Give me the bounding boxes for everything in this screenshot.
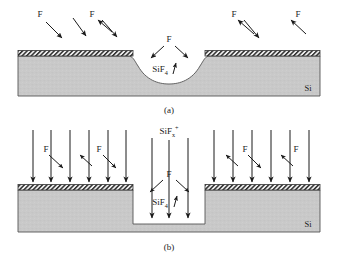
radical-label-b-2: F bbox=[96, 144, 101, 154]
panel-caption-b: (b) bbox=[164, 242, 175, 252]
radical-label-a-4: F bbox=[295, 9, 300, 19]
substrate-label-a: Si bbox=[304, 83, 312, 93]
radical-label-b-4: F bbox=[293, 144, 298, 154]
radical-label-b-center: F bbox=[166, 169, 171, 179]
radical-label-a-3: F bbox=[231, 9, 236, 19]
radical-label-a-1: F bbox=[37, 9, 42, 19]
mask-layer-a-right bbox=[205, 51, 320, 57]
mask-layer-b-right bbox=[205, 185, 320, 191]
etch-profile-diagram: F F F F F SiF4 Si (a) bbox=[0, 0, 338, 264]
panel-caption-a: (a) bbox=[164, 105, 174, 115]
radical-label-b-1: F bbox=[43, 144, 48, 154]
radical-label-a-2: F bbox=[89, 9, 94, 19]
mask-layer-b-left bbox=[18, 185, 133, 191]
mask-layer-a-left bbox=[18, 51, 133, 57]
radical-label-a-center: F bbox=[166, 34, 171, 44]
substrate-label-b: Si bbox=[304, 219, 312, 229]
figure-container: F F F F F SiF4 Si (a) bbox=[0, 0, 338, 264]
radical-label-b-3: F bbox=[242, 144, 247, 154]
